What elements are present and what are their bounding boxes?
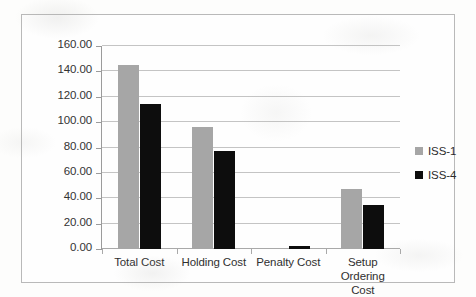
- x-axis-label-line: Cost: [326, 283, 401, 297]
- y-axis-tick-label: 140.00: [26, 63, 92, 75]
- y-axis-tick-mark: [96, 224, 101, 225]
- x-axis-label-total-cost: Total Cost: [102, 255, 177, 269]
- legend-entry-iss-4[interactable]: ISS-4: [415, 169, 473, 181]
- bar-iss-1-setup-ordering-cost: [341, 189, 362, 249]
- y-axis-tick-mark: [96, 46, 101, 47]
- bar-iss-4-setup-ordering-cost: [363, 205, 384, 249]
- y-axis-tick-mark: [96, 173, 101, 174]
- gridline: [102, 70, 400, 71]
- x-axis-label-line: Setup Ordering: [326, 255, 401, 283]
- x-axis-label-line: Holding Cost: [177, 255, 252, 269]
- y-axis-tick-mark: [96, 148, 101, 149]
- x-axis-category-labels: Total CostHolding CostPenalty CostSetup …: [102, 255, 400, 293]
- gridline: [102, 45, 400, 46]
- y-axis-tick-label: 80.00: [26, 140, 92, 152]
- x-axis-category-separator: [177, 249, 178, 254]
- legend-swatch-icon: [415, 147, 423, 155]
- y-axis-tick-mark: [96, 122, 101, 123]
- chart-frame: 0.0020.0040.0060.0080.00100.00120.00140.…: [21, 14, 455, 283]
- y-axis-tick-labels: 0.0020.0040.0060.0080.00100.00120.00140.…: [22, 15, 92, 284]
- legend-entry-iss-1[interactable]: ISS-1: [415, 145, 473, 157]
- y-axis-tick-label: 60.00: [26, 165, 92, 177]
- y-axis-tick-label: 20.00: [26, 216, 92, 228]
- x-axis-label-penalty-cost: Penalty Cost: [251, 255, 326, 269]
- legend-swatch-icon: [415, 171, 423, 179]
- legend-label: ISS-4: [428, 169, 456, 181]
- gridline: [102, 96, 400, 97]
- bar-iss-1-holding-cost: [192, 127, 213, 249]
- y-axis-tick-label: 0.00: [26, 241, 92, 253]
- x-axis-category-separator: [251, 249, 252, 254]
- x-axis-end-tick: [102, 249, 103, 254]
- chart-legend: ISS-1ISS-4: [415, 145, 473, 193]
- x-axis-label-holding-cost: Holding Cost: [177, 255, 252, 269]
- x-axis-end-tick: [400, 249, 401, 254]
- x-axis-category-separator: [326, 249, 327, 254]
- bar-iss-4-total-cost: [140, 104, 161, 249]
- y-axis-tick-mark: [96, 71, 101, 72]
- plot-area: [102, 46, 400, 249]
- bar-iss-4-holding-cost: [214, 151, 235, 249]
- bar-iss-1-total-cost: [118, 65, 139, 249]
- y-axis-tick-label: 40.00: [26, 190, 92, 202]
- bar-iss-4-penalty-cost: [289, 246, 310, 249]
- x-axis-label-line: Penalty Cost: [251, 255, 326, 269]
- y-axis-tick-label: 100.00: [26, 114, 92, 126]
- y-axis-tick-label: 120.00: [26, 89, 92, 101]
- x-axis-label-setup-ordering-cost: Setup OrderingCost: [326, 255, 401, 297]
- legend-label: ISS-1: [428, 145, 456, 157]
- x-axis-label-line: Total Cost: [102, 255, 177, 269]
- y-axis-tick-mark: [96, 97, 101, 98]
- y-axis-tick-mark: [96, 249, 101, 250]
- y-axis-tick-label: 160.00: [26, 38, 92, 50]
- y-axis-tick-mark: [96, 198, 101, 199]
